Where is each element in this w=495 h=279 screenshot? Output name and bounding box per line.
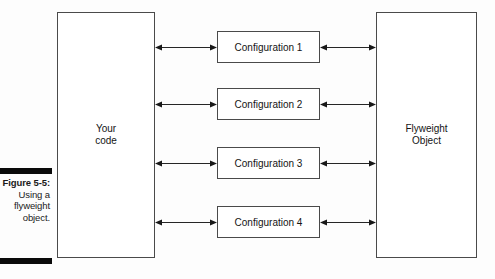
caption-rule-top: [0, 168, 52, 174]
node-configuration-2: Configuration 2: [217, 88, 320, 120]
node-configuration-2-label: Configuration 2: [235, 99, 303, 110]
caption-rule-bottom: [0, 258, 52, 264]
caption-figure-number: Figure 5-5:: [0, 177, 50, 189]
double-arrow-icon: [320, 217, 376, 228]
double-arrow-icon: [155, 158, 217, 169]
figure-container: Figure 5-5: Using a flyweight object. Yo…: [0, 0, 495, 279]
double-arrow-icon: [155, 99, 217, 110]
node-flyweight-object-label: Flyweight Object: [405, 123, 447, 148]
connector-your-code-to-configuration-3: [155, 158, 217, 169]
double-arrow-icon: [155, 42, 217, 53]
double-arrow-icon: [320, 158, 376, 169]
figure-caption-block: Figure 5-5: Using a flyweight object.: [0, 168, 52, 264]
node-configuration-3-label: Configuration 3: [235, 158, 303, 169]
node-configuration-1: Configuration 1: [217, 31, 320, 63]
node-configuration-1-label: Configuration 1: [235, 42, 303, 53]
connector-your-code-to-configuration-2: [155, 99, 217, 110]
node-configuration-4-label: Configuration 4: [235, 217, 303, 228]
connector-your-code-to-configuration-4: [155, 217, 217, 228]
node-configuration-3: Configuration 3: [217, 147, 320, 179]
double-arrow-icon: [155, 217, 217, 228]
double-arrow-icon: [320, 42, 376, 53]
node-your-code: Your code: [57, 12, 155, 258]
double-arrow-icon: [320, 99, 376, 110]
caption-line-1: Using a: [0, 189, 50, 201]
connector-configuration-4-to-flyweight-object: [320, 217, 376, 228]
connector-configuration-2-to-flyweight-object: [320, 99, 376, 110]
caption-line-3: object.: [0, 212, 50, 224]
connector-configuration-1-to-flyweight-object: [320, 42, 376, 53]
figure-caption-text: Figure 5-5: Using a flyweight object.: [0, 177, 50, 223]
connector-your-code-to-configuration-1: [155, 42, 217, 53]
caption-line-2: flyweight: [0, 200, 50, 212]
node-configuration-4: Configuration 4: [217, 206, 320, 238]
connector-configuration-3-to-flyweight-object: [320, 158, 376, 169]
node-flyweight-object: Flyweight Object: [376, 12, 477, 258]
node-your-code-label: Your code: [95, 123, 117, 148]
